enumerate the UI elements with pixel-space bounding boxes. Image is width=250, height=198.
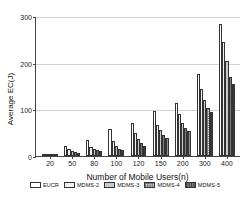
legend-swatch: [104, 182, 115, 188]
bar: [165, 138, 168, 156]
bar: [143, 146, 146, 156]
y-tick-mark: [33, 157, 36, 158]
x-tick-label: 120: [133, 160, 145, 167]
bar-groups: 205080100120150200300400: [36, 17, 240, 156]
x-tick-label: 100: [111, 160, 123, 167]
chart-legend: EUCRMDMS-2MDMS-3MDMS-4MDMS-5: [0, 182, 250, 188]
x-tick-mark: [161, 156, 162, 159]
legend-swatch: [144, 182, 155, 188]
x-tick-label: 20: [46, 160, 54, 167]
x-tick-mark: [183, 156, 184, 159]
bar-group: 100: [105, 17, 127, 156]
x-tick-mark: [205, 156, 206, 159]
x-tick-mark: [138, 156, 139, 159]
bar: [99, 151, 102, 156]
legend-item[interactable]: EUCR: [30, 182, 59, 188]
x-tick-label: 150: [155, 160, 167, 167]
bar: [210, 112, 213, 156]
legend-label: MDMS-2: [77, 182, 99, 188]
legend-label: MDMS-4: [157, 182, 179, 188]
bar: [55, 154, 58, 156]
x-tick-label: 300: [199, 160, 211, 167]
y-tick-label: 200: [20, 60, 32, 67]
bar-chart: Average EC(J) 0100200300 205080100120150…: [0, 0, 250, 198]
legend-item[interactable]: MDMS-4: [144, 182, 179, 188]
legend-label: EUCR: [43, 182, 59, 188]
bar-group: 80: [83, 17, 105, 156]
plot-area: 0100200300 205080100120150200300400: [35, 17, 240, 157]
bar-group: 400: [216, 17, 238, 156]
legend-swatch: [30, 182, 41, 188]
x-tick-mark: [50, 156, 51, 159]
x-tick-label: 80: [90, 160, 98, 167]
bar-group: 120: [127, 17, 149, 156]
bar-group: 50: [61, 17, 83, 156]
y-tick-label: 300: [20, 14, 32, 21]
x-tick-mark: [94, 156, 95, 159]
bar: [187, 131, 190, 156]
legend-item[interactable]: MDMS-3: [104, 182, 139, 188]
y-tick-label: 100: [20, 107, 32, 114]
x-tick-mark: [72, 156, 73, 159]
bar: [121, 150, 124, 156]
legend-item[interactable]: MDMS-5: [185, 182, 220, 188]
x-tick-label: 200: [177, 160, 189, 167]
x-tick-mark: [116, 156, 117, 159]
legend-swatch: [185, 182, 196, 188]
x-axis-title: Number of Mobile Users(n): [35, 172, 240, 182]
legend-label: MDMS-3: [117, 182, 139, 188]
bar: [232, 84, 235, 156]
bar-group: 20: [39, 17, 61, 156]
legend-label: MDMS-5: [198, 182, 220, 188]
x-tick-label: 400: [221, 160, 233, 167]
y-axis-title: Average EC(J): [6, 39, 15, 159]
legend-item[interactable]: MDMS-2: [64, 182, 99, 188]
bar-group: 150: [150, 17, 172, 156]
legend-swatch: [64, 182, 75, 188]
x-tick-mark: [227, 156, 228, 159]
x-tick-label: 50: [68, 160, 76, 167]
bar-group: 200: [172, 17, 194, 156]
bar-group: 300: [194, 17, 216, 156]
y-tick-label: 0: [28, 154, 32, 161]
bar: [77, 153, 80, 156]
